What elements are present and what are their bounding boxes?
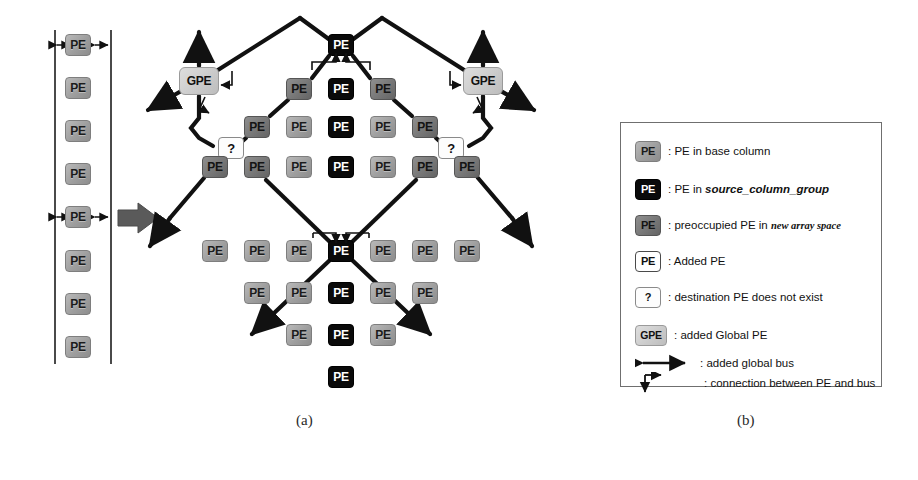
connector-layer — [0, 0, 918, 480]
center-pe-connectors — [313, 233, 369, 243]
left-gpe-connectors — [200, 71, 232, 113]
right-gpe-connectors — [450, 71, 482, 113]
top-pe-connectors — [312, 53, 370, 70]
figure-canvas: PEGPEPEPEPEGPEPEPEPEPEPE??PEPEPEPEPEPEPE… — [0, 0, 918, 480]
